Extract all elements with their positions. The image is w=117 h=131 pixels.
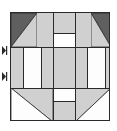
bottom-left-corner-triangle-white — [11, 88, 53, 121]
seam-col-right-outer — [105, 47, 106, 88]
quilt-block — [10, 12, 110, 121]
seam-top-center-split — [53, 33, 75, 34]
middle-left-strip-light — [11, 47, 23, 88]
seam-col-center-right — [75, 13, 76, 121]
middle-right-inner-light — [75, 47, 87, 88]
top-right-corner-triangle-light — [91, 13, 110, 47]
seam-bottom-center-split — [53, 101, 75, 102]
top-center-left-strip-light — [37, 13, 53, 47]
seam-col-center-left — [53, 13, 54, 121]
middle-left-white-rect — [23, 47, 41, 88]
bottom-center-bar-light — [53, 101, 75, 121]
measure-tick-lower — [1, 72, 10, 81]
top-center-bar-light — [53, 13, 75, 33]
top-right-strip-light — [75, 13, 91, 47]
seam-row-2 — [11, 88, 110, 89]
seam-col-left-outer — [23, 47, 24, 88]
top-left-corner-triangle-light — [11, 13, 37, 47]
measure-tick-upper — [1, 46, 10, 55]
middle-left-inner-light — [41, 47, 53, 88]
center-square-light — [53, 47, 75, 88]
figure-canvas — [0, 0, 117, 131]
bottom-center-bar-white — [53, 88, 75, 101]
top-center-bar-white — [53, 33, 75, 47]
middle-right-white-rect — [87, 47, 105, 88]
quilt-patch-layer — [11, 13, 109, 120]
bottom-right-corner-triangle-white — [75, 88, 110, 121]
seam-col-left-inner — [41, 47, 42, 88]
seam-col-right-inner — [87, 47, 88, 88]
seam-row-1 — [11, 47, 110, 48]
